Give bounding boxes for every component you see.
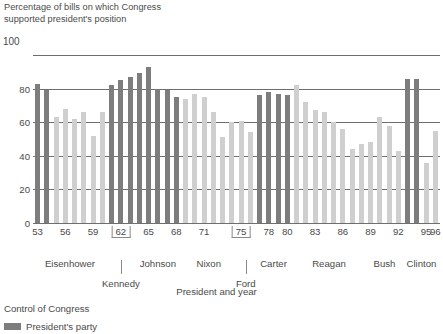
x-tick-56: 56 xyxy=(60,226,71,237)
bar-58 xyxy=(81,112,86,223)
legend-title: Control of Congress xyxy=(4,303,89,314)
bar-72 xyxy=(211,112,216,223)
bar-63 xyxy=(128,77,133,223)
chart-figure: Percentage of bills on which Congress su… xyxy=(0,0,443,334)
bar-84 xyxy=(322,112,327,223)
bar-59 xyxy=(91,136,96,223)
bar-92 xyxy=(396,151,401,223)
bar-74 xyxy=(229,122,234,223)
y-axis-labels: 020406080 xyxy=(0,55,30,223)
x-tick-59: 59 xyxy=(88,226,99,237)
bar-70 xyxy=(192,94,197,223)
president-label-nixon: Nixon xyxy=(196,258,221,269)
x-tick-53: 53 xyxy=(32,226,43,237)
bar-65 xyxy=(146,67,151,223)
y-axis-top-label: 100 xyxy=(3,36,20,47)
x-axis-line xyxy=(33,223,440,224)
leader-line-ford xyxy=(246,260,247,274)
legend: President's party xyxy=(4,320,97,333)
x-tick-96: 96 xyxy=(430,226,441,237)
bar-90 xyxy=(377,117,382,223)
president-label-clinton: Clinton xyxy=(407,258,437,269)
legend-swatch xyxy=(4,323,21,330)
bar-96 xyxy=(433,131,438,223)
x-tick-80: 80 xyxy=(282,226,293,237)
legend-row: President's party xyxy=(4,320,97,333)
bar-68 xyxy=(174,97,179,223)
y-tick-20: 20 xyxy=(4,184,30,195)
bar-88 xyxy=(359,144,364,223)
bar-82 xyxy=(303,102,308,223)
bar-66 xyxy=(155,89,160,223)
bar-57 xyxy=(72,119,77,223)
bar-91 xyxy=(387,126,392,223)
x-tick-86: 86 xyxy=(338,226,349,237)
bar-77 xyxy=(257,95,262,223)
bar-62 xyxy=(118,80,123,223)
x-tick-83: 83 xyxy=(310,226,321,237)
bar-73 xyxy=(220,137,225,223)
bar-93 xyxy=(405,79,410,223)
president-label-carter: Carter xyxy=(260,258,287,269)
y-tick-80: 80 xyxy=(4,83,30,94)
chart-title: Percentage of bills on which Congress su… xyxy=(4,2,161,25)
bar-80 xyxy=(285,95,290,223)
x-tick-62: 62 xyxy=(112,226,131,238)
president-label-reagan: Reagan xyxy=(312,258,346,269)
bar-53 xyxy=(35,84,40,223)
bar-78 xyxy=(266,92,271,223)
x-tick-78: 78 xyxy=(264,226,275,237)
bar-69 xyxy=(183,99,188,223)
bar-83 xyxy=(313,110,318,223)
x-tick-68: 68 xyxy=(171,226,182,237)
bar-55 xyxy=(54,117,59,223)
leader-line-kennedy xyxy=(121,260,122,274)
bar-86 xyxy=(340,129,345,223)
bar-54 xyxy=(44,90,49,223)
y-tick-40: 40 xyxy=(4,150,30,161)
x-tick-89: 89 xyxy=(365,226,376,237)
bar-61 xyxy=(109,85,114,223)
bar-79 xyxy=(276,94,281,223)
bar-75 xyxy=(239,121,244,223)
x-tick-71: 71 xyxy=(199,226,210,237)
bar-56 xyxy=(63,109,68,223)
bar-95 xyxy=(424,163,429,223)
bar-67 xyxy=(165,90,170,223)
bar-series xyxy=(33,55,440,223)
president-label-eisenhower: Eisenhower xyxy=(45,258,95,269)
y-tick-60: 60 xyxy=(4,117,30,128)
bar-60 xyxy=(100,112,105,223)
bar-94 xyxy=(414,79,419,223)
bar-71 xyxy=(202,97,207,223)
bar-81 xyxy=(294,85,299,223)
x-tick-65: 65 xyxy=(143,226,154,237)
bar-85 xyxy=(331,122,336,223)
bar-64 xyxy=(137,73,142,223)
legend-label: President's party xyxy=(26,321,97,332)
bar-89 xyxy=(368,142,373,223)
y-tick-0: 0 xyxy=(4,218,30,229)
president-label-johnson: Johnson xyxy=(140,258,176,269)
bar-87 xyxy=(350,149,355,223)
x-axis-tick-labels: 53565962656871757880838689929596 xyxy=(33,226,440,240)
x-tick-92: 92 xyxy=(393,226,404,237)
x-axis-caption: President and year xyxy=(176,286,257,297)
president-label-bush: Bush xyxy=(374,258,396,269)
president-label-kennedy: Kennedy xyxy=(102,278,140,289)
bar-76 xyxy=(248,132,253,223)
x-tick-75: 75 xyxy=(232,226,251,238)
